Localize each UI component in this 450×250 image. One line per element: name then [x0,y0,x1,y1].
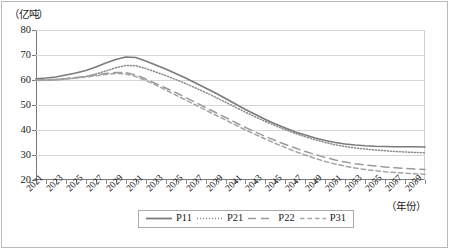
chart-legend: P11P21P22P31 [138,210,354,228]
y-tick-label-70: 70 [21,50,32,61]
y-axis-unit-label: （亿吨） [9,6,48,21]
x-axis-unit-label: （年份） [386,198,426,213]
legend-label-P11: P11 [176,213,192,224]
legend-entry-P22[interactable]: P22 [248,213,294,224]
legend-entry-P31[interactable]: P31 [300,213,346,224]
legend-label-P22: P22 [278,213,294,224]
series-line-P21 [36,66,425,153]
legend-label-P31: P31 [330,213,346,224]
y-tick-label-80: 80 [21,25,32,36]
series-lines [36,30,425,180]
y-tick-label-50: 50 [21,100,32,111]
chart-container: （亿吨） 20304050607080 20212023202520272029… [0,0,450,250]
x-tick-mark-2060 [425,180,426,184]
legend-swatch-P22 [248,214,274,223]
legend-swatch-P31 [300,214,326,223]
legend-label-P21: P21 [227,213,243,224]
y-tick-label-60: 60 [21,75,32,86]
y-tick-label-30: 30 [21,150,32,161]
legend-entry-P21[interactable]: P21 [197,213,243,224]
y-tick-label-40: 40 [21,125,32,136]
series-line-P22 [36,73,425,170]
legend-entry-P11[interactable]: P11 [146,213,192,224]
series-line-P11 [36,57,425,147]
legend-swatch-P21 [197,214,223,223]
series-line-P31 [36,74,425,175]
legend-swatch-P11 [146,214,172,223]
plot-area: 20304050607080 2021202320252027202920312… [36,30,425,180]
